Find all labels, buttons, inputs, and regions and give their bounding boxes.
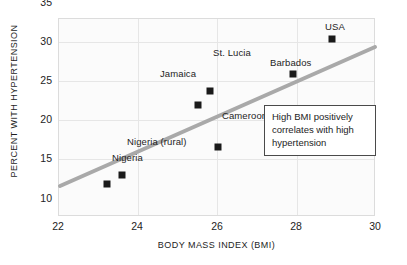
- annotation-line-1: High BMI positively: [272, 111, 368, 124]
- y-tick-label-15: 15: [30, 153, 52, 164]
- data-point-barbados[interactable]: [289, 70, 296, 77]
- x-tick-label-24: 24: [131, 221, 143, 232]
- data-point-jamaica[interactable]: [194, 102, 201, 109]
- y-tick-label-30: 30: [30, 36, 52, 47]
- data-label-nigeria-rural: Nigeria (rural): [127, 137, 187, 147]
- x-tick-label-28: 28: [290, 221, 302, 232]
- scatter-chart: PERCENT WITH HYPERTENSION BODY MASS INDE…: [0, 0, 407, 265]
- data-label-cameroon: Cameroon: [222, 111, 267, 121]
- data-label-nigeria: Nigeria: [112, 153, 143, 163]
- data-label-barbados: Barbados: [270, 58, 311, 68]
- annotation-line-2: correlates with high: [272, 124, 368, 137]
- data-label-st-lucia: St. Lucia: [213, 48, 251, 58]
- data-point-st-lucia[interactable]: [206, 88, 213, 95]
- x-tick-label-26: 26: [211, 221, 223, 232]
- annotation-line-3: hypertension: [272, 137, 368, 150]
- annotation-box: High BMI positively correlates with high…: [264, 105, 376, 156]
- data-point-cameroon[interactable]: [214, 144, 221, 151]
- y-tick-label-20: 20: [30, 114, 52, 125]
- y-axis-title: PERCENT WITH HYPERTENSION: [9, 11, 19, 191]
- data-point-nigeria[interactable]: [103, 180, 110, 187]
- data-label-usa: USA: [325, 22, 345, 32]
- y-tick-label-10: 10: [30, 193, 52, 204]
- data-point-usa[interactable]: [329, 35, 336, 42]
- x-tick-label-22: 22: [52, 221, 64, 232]
- x-axis-title: BODY MASS INDEX (BMI): [58, 240, 375, 250]
- x-tick-label-30: 30: [369, 221, 381, 232]
- y-tick-label-25: 25: [30, 75, 52, 86]
- data-point-nigeria-rural[interactable]: [119, 172, 126, 179]
- y-tick-label-35: 35: [30, 0, 52, 7]
- data-label-jamaica: Jamaica: [160, 69, 196, 79]
